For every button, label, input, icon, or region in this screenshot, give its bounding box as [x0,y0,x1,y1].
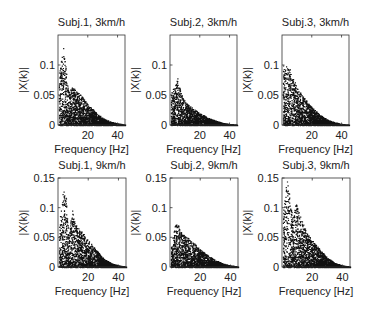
y-tick-label: 0 [161,119,167,131]
subplot-3: 00.050.12040Subj.3, 3km/hFrequency [Hz]|… [241,16,353,155]
subplot-title: Subj.2, 3km/h [170,16,237,28]
y-tick-label: 0 [273,261,279,273]
y-tick-label: 0.1 [152,59,167,71]
subplot-2: 00.050.12040Subj.2, 3km/hFrequency [Hz]|… [129,16,241,155]
y-tick-label: 0.05 [258,89,279,101]
x-tick-label: 40 [336,271,348,283]
y-axis-label: |X(k)| [129,67,141,93]
y-tick-label: 0 [49,119,55,131]
x-tick-label: 40 [224,271,236,283]
y-tick-label: 0.05 [146,231,167,243]
y-tick-label: 0.15 [258,172,279,184]
y-tick-label: 0.1 [264,59,279,71]
scatter-points [171,225,239,269]
subplot-title: Subj.2, 9km/h [170,159,237,171]
y-tick-label: 0.1 [40,59,55,71]
y-tick-label: 0.05 [34,231,55,243]
subplot-4: 00.050.10.152040Subj.1, 9km/hFrequency [… [17,159,129,297]
subplot-5: 00.050.10.152040Subj.2, 9km/hFrequency [… [129,159,241,297]
y-tick-label: 0.1 [152,202,167,214]
x-tick-label: 40 [223,129,235,141]
y-tick-label: 0.15 [34,172,55,184]
subplot-grid: 00.050.12040Subj.1, 3km/hFrequency [Hz]|… [17,16,353,297]
scatter-points [59,48,126,126]
subplot-1: 00.050.12040Subj.1, 3km/hFrequency [Hz]|… [17,16,129,155]
x-tick-label: 40 [112,271,124,283]
y-tick-label: 0.05 [146,89,167,101]
y-tick-label: 0 [273,119,279,131]
subplot-6: 00.050.10.152040Subj.3, 9km/hFrequency [… [241,159,353,297]
x-axis-label: Frequency [Hz] [166,143,241,155]
x-tick-label: 20 [194,129,206,141]
y-tick-label: 0.1 [264,202,279,214]
scatter-points [59,192,127,269]
x-axis-label: Frequency [Hz] [278,143,353,155]
y-axis-label: |X(k)| [17,67,29,93]
x-tick-label: 40 [111,129,123,141]
scatter-points [283,181,351,268]
scatter-points [283,65,350,126]
y-tick-label: 0.1 [40,202,55,214]
x-axis-label: Frequency [Hz] [54,143,129,155]
x-tick-label: 20 [306,271,318,283]
y-tick-label: 0.05 [258,231,279,243]
subplot-title: Subj.3, 9km/h [282,159,349,171]
x-tick-label: 20 [82,271,94,283]
subplot-title: Subj.3, 3km/h [282,16,349,28]
y-axis-label: |X(k)| [17,210,29,236]
x-tick-label: 40 [335,129,347,141]
x-axis-label: Frequency [Hz] [55,285,130,297]
y-tick-label: 0 [161,261,167,273]
y-tick-label: 0 [49,261,55,273]
y-axis-label: |X(k)| [241,67,253,93]
subplot-title: Subj.1, 3km/h [58,16,125,28]
y-tick-label: 0.05 [34,89,55,101]
x-axis-label: Frequency [Hz] [279,285,354,297]
y-tick-label: 0.15 [146,172,167,184]
scatter-points [171,78,238,126]
x-axis-label: Frequency [Hz] [167,285,242,297]
x-tick-label: 20 [82,129,94,141]
y-axis-label: |X(k)| [241,210,253,236]
y-axis-label: |X(k)| [129,210,141,236]
x-tick-label: 20 [306,129,318,141]
x-tick-label: 20 [194,271,206,283]
figure: 00.050.12040Subj.1, 3km/hFrequency [Hz]|… [0,0,368,314]
subplot-title: Subj.1, 9km/h [58,159,125,171]
